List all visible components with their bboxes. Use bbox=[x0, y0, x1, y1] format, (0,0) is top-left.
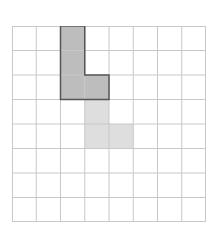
shape-cell bbox=[109, 124, 133, 149]
shape-cell bbox=[85, 100, 109, 125]
shape-cell bbox=[61, 26, 85, 51]
shape-cell bbox=[61, 51, 85, 76]
grid-svg bbox=[12, 26, 206, 222]
shape-cell bbox=[85, 75, 109, 100]
square-grid bbox=[12, 26, 206, 222]
shape-cell bbox=[61, 75, 85, 100]
shape-cell bbox=[85, 124, 109, 149]
